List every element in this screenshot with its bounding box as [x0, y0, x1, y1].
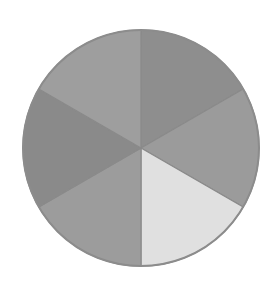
pie-chart-svg	[0, 0, 280, 287]
pie-slices	[23, 30, 259, 266]
pie-chart	[0, 0, 280, 287]
